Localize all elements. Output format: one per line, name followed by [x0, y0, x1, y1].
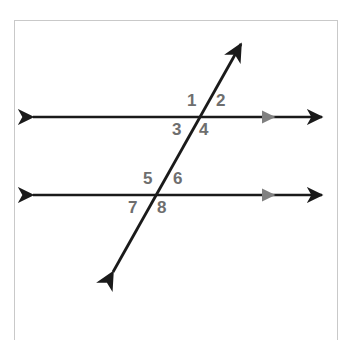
parallel-line-bottom [33, 189, 322, 202]
angle-label-2: 2 [216, 92, 225, 109]
angle-label-6: 6 [173, 170, 182, 187]
transversal-line-segment [113, 44, 241, 272]
angle-label-7: 7 [128, 199, 137, 216]
angle-label-1: 1 [187, 92, 196, 109]
parallel-marker-chevron-icon [262, 189, 276, 202]
angle-label-3: 3 [172, 121, 181, 138]
parallel-marker-chevron-icon [262, 111, 276, 124]
angle-label-4: 4 [199, 121, 208, 138]
transversal-line [113, 44, 241, 272]
angle-label-8: 8 [157, 199, 166, 216]
angle-label-5: 5 [143, 170, 152, 187]
